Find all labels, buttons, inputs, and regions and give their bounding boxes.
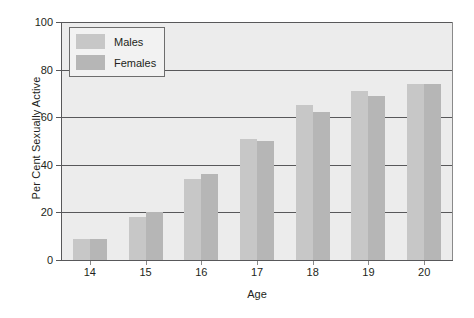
gridline xyxy=(62,117,452,118)
x-tick-label-14: 14 xyxy=(84,266,96,278)
bar-chart-figure: Per Cent Sexually Active 020406080100 Ag… xyxy=(0,0,474,318)
y-axis-title: Per Cent Sexually Active xyxy=(30,53,42,223)
bar-females-age-16 xyxy=(201,174,218,260)
y-tick-label: 60 xyxy=(41,111,53,123)
x-tick-label-17: 17 xyxy=(251,266,263,278)
legend-swatch-females-icon xyxy=(76,55,105,70)
legend-label-females: Females xyxy=(114,57,156,69)
bar-males-age-19 xyxy=(351,91,368,260)
legend-label-males: Males xyxy=(114,36,143,48)
x-axis-title: Age xyxy=(62,288,452,300)
chart-legend: Males Females xyxy=(69,27,165,77)
y-tick-label: 40 xyxy=(41,159,53,171)
y-tick-mark xyxy=(56,70,62,71)
x-tick-mark xyxy=(257,261,258,265)
x-tick-mark xyxy=(368,261,369,265)
y-tick-label: 0 xyxy=(47,254,53,266)
bar-females-age-18 xyxy=(313,112,330,260)
x-tick-mark xyxy=(313,261,314,265)
y-tick-mark xyxy=(56,165,62,166)
gridline xyxy=(62,22,452,23)
y-tick-mark xyxy=(56,22,62,23)
x-tick-label-19: 19 xyxy=(362,266,374,278)
x-tick-label-16: 16 xyxy=(195,266,207,278)
bar-females-age-20 xyxy=(424,84,441,260)
legend-swatch-males-icon xyxy=(76,34,105,49)
x-tick-label-15: 15 xyxy=(139,266,151,278)
bar-females-age-17 xyxy=(257,141,274,260)
bar-males-age-15 xyxy=(129,217,146,260)
bar-males-age-20 xyxy=(407,84,424,260)
bar-males-age-17 xyxy=(240,139,257,260)
legend-item-males: Males xyxy=(76,33,156,50)
y-tick-label: 20 xyxy=(41,206,53,218)
y-tick-label: 100 xyxy=(35,16,53,28)
bar-males-age-14 xyxy=(73,239,90,260)
x-tick-mark xyxy=(201,261,202,265)
y-tick-mark xyxy=(56,260,62,261)
y-tick-label: 80 xyxy=(41,64,53,76)
x-tick-mark xyxy=(146,261,147,265)
x-tick-label-18: 18 xyxy=(307,266,319,278)
x-tick-mark xyxy=(90,261,91,265)
y-tick-mark xyxy=(56,117,62,118)
x-tick-mark xyxy=(424,261,425,265)
x-tick-label-20: 20 xyxy=(418,266,430,278)
bar-males-age-16 xyxy=(184,179,201,260)
y-tick-mark xyxy=(56,212,62,213)
bar-females-age-15 xyxy=(146,212,163,260)
bar-males-age-18 xyxy=(296,105,313,260)
legend-item-females: Females xyxy=(76,54,156,71)
bar-females-age-14 xyxy=(90,239,107,260)
bar-females-age-19 xyxy=(368,96,385,260)
